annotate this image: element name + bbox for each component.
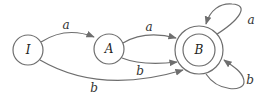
edge-label-B-B-a: a [247, 13, 254, 27]
edge-label-A-B-a: a [145, 20, 152, 34]
edge-label-A-B-b: b [136, 64, 144, 78]
state-B-accepting: B [175, 26, 223, 74]
edge-A-B-a [123, 35, 176, 43]
state-label-A: A [104, 42, 114, 56]
edge-I-A-a [41, 33, 94, 42]
edge-label-I-A: a [62, 18, 69, 32]
edge-label-I-B: b [90, 81, 98, 95]
automaton-diagram: a a b b a b I A B [0, 0, 270, 98]
edge-A-B-b [122, 58, 177, 63]
state-I: I [13, 35, 43, 65]
edge-label-B-B-b: b [246, 73, 254, 87]
state-A: A [94, 34, 124, 64]
state-label-I: I [25, 43, 31, 57]
state-label-B: B [194, 43, 204, 57]
